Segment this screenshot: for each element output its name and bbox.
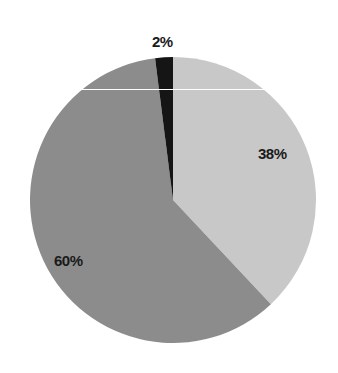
slice-label-60: 60% (54, 252, 83, 269)
pie-chart (0, 0, 338, 373)
slice-label-38: 38% (258, 145, 287, 162)
slice-label-2: 2% (152, 33, 173, 50)
pie-slices (30, 57, 316, 343)
